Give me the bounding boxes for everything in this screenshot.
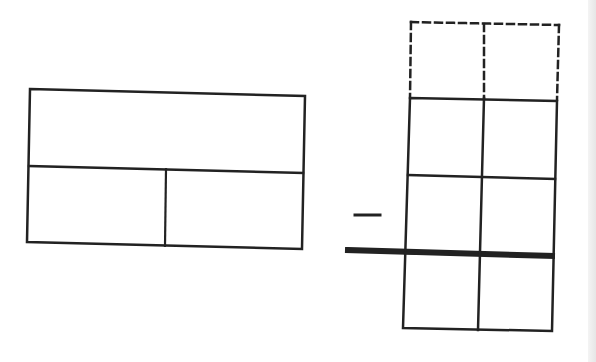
right-grid-figure (403, 22, 559, 331)
scan-edge-shadow (588, 0, 596, 362)
dashed-left-line (410, 22, 411, 98)
right-grid-column-line (478, 98, 484, 330)
left-bottom-divider (165, 169, 166, 246)
diagram-canvas (0, 0, 596, 362)
dashed-right-line (557, 25, 559, 100)
left-rectangle-figure (27, 89, 305, 249)
